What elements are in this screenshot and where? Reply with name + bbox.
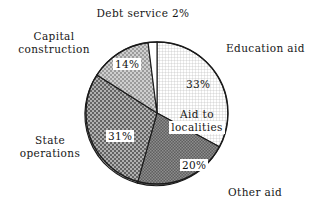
slice-label-state-operations: State operations [2, 134, 98, 159]
slice-label-other-aid: Other aid [228, 186, 314, 199]
annotation-aid-to-localities-line1: Aid to [160, 108, 234, 121]
slice-value-state-operations: 31% [106, 130, 134, 142]
slice-label-state-operations-line1: State [2, 134, 98, 147]
slice-label-education-aid: Education aid [226, 42, 316, 55]
slice-label-state-operations-line2: operations [2, 147, 98, 160]
slice-label-debt-service: Debt service 2% [63, 7, 223, 20]
annotation-aid-to-localities-line2: localities [169, 121, 225, 134]
slice-value-other-aid: 20% [180, 159, 208, 171]
pie-chart: Debt service 2% Capital construction Sta… [0, 0, 317, 210]
slice-label-capital-construction-line2: construction [6, 43, 102, 56]
annotation-aid-to-localities: Aid to localities [160, 108, 234, 134]
slice-value-capital-construction: 14% [113, 58, 141, 70]
slice-value-education-aid: 33% [184, 78, 212, 90]
slice-label-capital-construction-line1: Capital [6, 30, 102, 43]
slice-label-capital-construction: Capital construction [6, 30, 102, 55]
